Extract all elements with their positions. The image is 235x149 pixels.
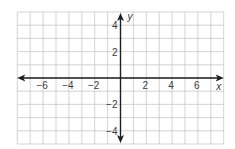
y-tick-label: −2 <box>106 99 118 110</box>
x-axis-label: x <box>215 81 222 92</box>
x-tick-label: 4 <box>168 80 174 91</box>
x-tick-label: 2 <box>143 80 149 91</box>
y-tick-label: −4 <box>106 126 118 137</box>
x-tick-label: −6 <box>36 80 48 91</box>
coordinate-plane: −6−4−224642−2−4xy <box>0 0 235 149</box>
x-tick-label: 6 <box>194 80 200 91</box>
y-axis-label: y <box>127 11 134 22</box>
x-tick-label: −4 <box>62 80 74 91</box>
axes <box>17 13 223 143</box>
x-tick-label: −2 <box>88 80 100 91</box>
y-tick-label: 4 <box>112 20 118 31</box>
y-tick-label: 2 <box>112 47 118 58</box>
